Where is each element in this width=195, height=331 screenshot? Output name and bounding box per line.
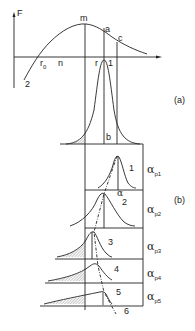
alpha-p2-label: αp2 — [147, 204, 161, 217]
f-axis-arrow-icon — [13, 12, 16, 17]
alpha-p5-label: αp5 — [147, 291, 161, 304]
curve-label-p5: 5 — [116, 288, 121, 297]
panel-a-label: (a) — [174, 96, 185, 105]
curve-label-p2: 2 — [122, 198, 127, 207]
alpha-p4-label: αp4 — [147, 268, 161, 281]
force-curve — [24, 24, 147, 80]
curve-label-p3: 3 — [108, 238, 113, 247]
peak-trajectory — [94, 156, 117, 314]
diagram-canvas — [0, 0, 195, 331]
point-m: m — [80, 14, 88, 23]
curve-label-6: 6 — [124, 307, 129, 316]
distribution-curve-1 — [66, 60, 140, 144]
point-b: b — [106, 133, 111, 142]
curve-label-p1: 1 — [129, 164, 134, 173]
curve-label-2: 2 — [25, 80, 30, 89]
point-n: n — [58, 59, 63, 68]
panel-b-label: (b) — [174, 196, 185, 205]
curve-label-p4: 4 — [114, 265, 119, 274]
point-r: r — [95, 59, 98, 68]
r-axis-arrow-icon — [156, 56, 162, 59]
point-a: a — [105, 25, 110, 34]
point-c: c — [118, 34, 123, 43]
f-axis-label: F — [17, 9, 23, 18]
alpha-p1-label: αp1 — [147, 164, 161, 177]
point-r0: r0 — [40, 59, 46, 70]
alpha-p3-label: αp3 — [147, 241, 161, 254]
curve-label-1: 1 — [108, 59, 113, 68]
